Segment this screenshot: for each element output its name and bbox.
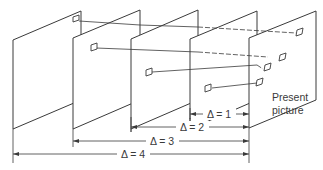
label-delta-1: Δ = 1 [207, 108, 231, 120]
label-delta-4: Δ = 4 [121, 148, 145, 160]
present-picture-label-line2: picture [272, 104, 304, 116]
arrowhead-delta-2-right [243, 125, 249, 129]
frame-delta-3 [73, 10, 140, 129]
arrowhead-delta-4-right [243, 152, 249, 156]
frame-delta-4 [13, 11, 81, 129]
label-delta-3: Δ = 3 [150, 135, 174, 147]
arrowhead-delta-3-right [243, 139, 249, 143]
label-delta-2: Δ = 2 [180, 121, 204, 133]
arrowhead-delta-4-left [13, 152, 19, 156]
arrowhead-delta-1-right [243, 112, 249, 116]
diagram-canvas: Δ = 1 Δ = 2 Δ = 3 Δ = 4 Present picture [0, 0, 323, 170]
arrowhead-delta-3-left [73, 139, 79, 143]
present-picture-label-line1: Present [272, 91, 308, 103]
